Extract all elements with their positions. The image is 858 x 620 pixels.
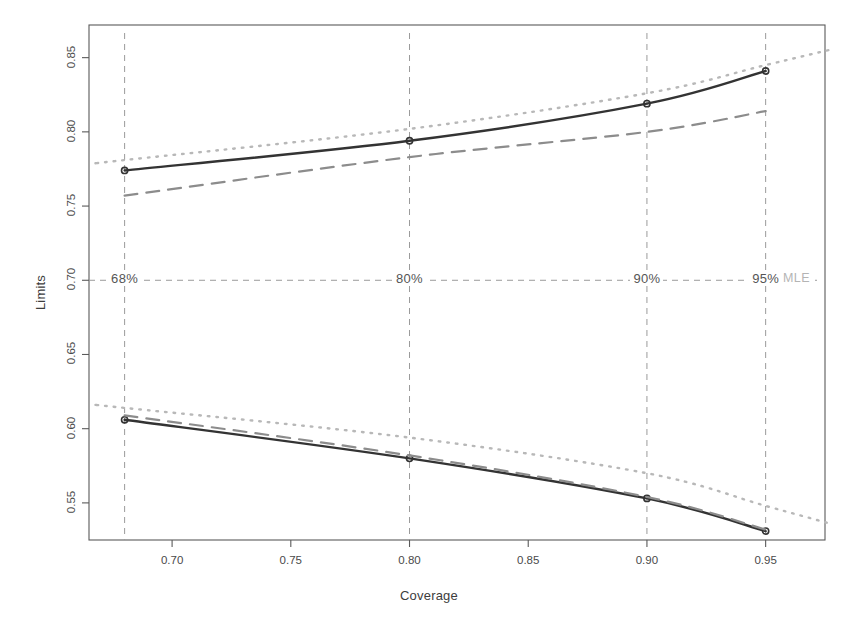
x-tick-label-2: 0.80 (380, 554, 440, 566)
y-tick-label-3: 0.70 (65, 249, 77, 309)
y-tick-label-4: 0.75 (65, 175, 77, 235)
series-line-lower-solid (125, 420, 766, 531)
coverage-annotation-95: 95% (749, 271, 782, 286)
series-line-upper-solid (125, 71, 766, 170)
coverage-annotation-68: 68% (108, 271, 141, 286)
x-tick-label-1: 0.75 (261, 554, 321, 566)
y-tick-label-2: 0.65 (65, 323, 77, 383)
chart-figure: Coverage Limits 0.700.750.800.850.900.95… (0, 0, 858, 620)
coverage-annotation-80: 80% (393, 271, 426, 286)
series-line-upper-dotted (93, 50, 831, 164)
y-axis-title: Limits (33, 233, 48, 353)
plot-canvas (0, 0, 858, 620)
series-line-upper-dashed (125, 111, 766, 196)
y-tick-label-6: 0.85 (65, 27, 77, 87)
coverage-annotation-90: 90% (630, 271, 663, 286)
x-axis-title: Coverage (0, 588, 858, 603)
x-tick-label-4: 0.90 (617, 554, 677, 566)
y-tick-label-5: 0.80 (65, 101, 77, 161)
x-tick-label-3: 0.85 (498, 554, 558, 566)
mle-annotation: MLE (780, 271, 813, 285)
y-tick-label-1: 0.60 (65, 398, 77, 458)
x-tick-label-0: 0.70 (142, 554, 202, 566)
y-tick-label-0: 0.55 (65, 472, 77, 532)
x-tick-label-5: 0.95 (736, 554, 796, 566)
